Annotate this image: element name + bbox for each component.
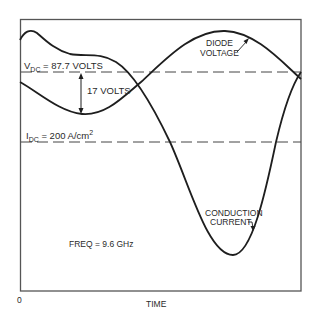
frequency-label: FREQ = 9.6 GHz [69, 239, 133, 249]
diode-voltage-label-line1: DIODE [206, 38, 233, 48]
arrow-up-icon [79, 73, 84, 79]
vdc-label: VDC = 87.7 VOLTS [24, 60, 103, 73]
pointer-arrow-icon [251, 226, 256, 231]
x-axis-label: TIME [146, 299, 167, 309]
diode-voltage-label-line2: VOLTAGE [200, 48, 239, 58]
chart: VDC = 87.7 VOLTS 17 VOLTS IDC = 200 A/cm… [0, 0, 318, 323]
x-origin-label: 0 [17, 295, 22, 305]
conduction-current-label-line2: CURRENT [210, 217, 252, 227]
diode-voltage-curve [20, 31, 301, 114]
idc-label: IDC = 200 A/cm2 [26, 129, 93, 143]
swing-label: 17 VOLTS [87, 85, 131, 96]
pointer-arrow-icon [244, 38, 250, 44]
